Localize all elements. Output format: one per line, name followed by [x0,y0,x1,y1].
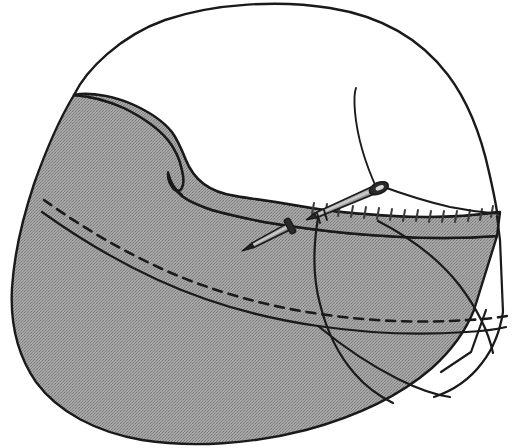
sewing-illustration: Sewing diagram: gray facing band folded … [0,0,529,448]
illustration-canvas: Sewing diagram: gray facing band folded … [0,0,529,448]
fabric-assembly [12,4,500,444]
right-edge-fold [497,216,503,312]
